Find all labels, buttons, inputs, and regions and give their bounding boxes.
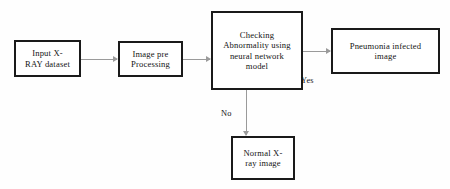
flowchart-node-input-dataset[interactable]: Input X- RAY dataset xyxy=(14,40,81,77)
connector-checking-to-normal xyxy=(246,90,247,135)
connector-input-to-preprocess xyxy=(81,59,117,60)
flowchart-canvas: Input X- RAY dataset Image pre Processin… xyxy=(0,0,450,189)
edge-label-no: No xyxy=(221,109,232,118)
flowchart-node-image-preprocessing[interactable]: Image pre Processing xyxy=(118,41,183,77)
flowchart-node-normal-xray-image[interactable]: Normal X- ray image xyxy=(231,136,295,180)
node-label-normal-xray-image: Normal X- ray image xyxy=(240,148,285,168)
node-label-image-preprocessing: Image pre Processing xyxy=(128,49,173,69)
flowchart-node-pneumonia-infected-image[interactable]: Pneumonia infected image xyxy=(331,28,440,74)
edge-label-yes: Yes xyxy=(301,76,314,85)
flowchart-node-checking-abnormality[interactable]: Checking Abnormality using neural networ… xyxy=(211,11,303,90)
node-label-checking-abnormality: Checking Abnormality using neural networ… xyxy=(220,30,294,71)
node-label-input-dataset: Input X- RAY dataset xyxy=(22,48,73,68)
node-label-pneumonia-infected-image: Pneumonia infected image xyxy=(347,41,425,61)
